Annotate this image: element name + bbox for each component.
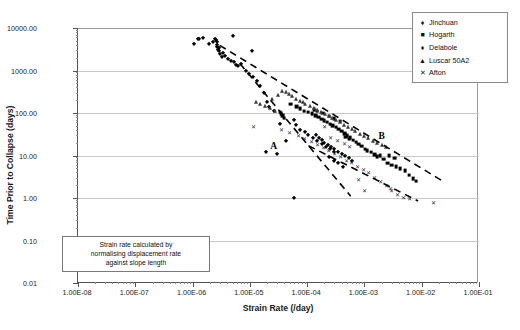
y-tick-label: 10.00 [19, 151, 37, 160]
x-tick-minor [187, 282, 188, 284]
x-tick-minor [382, 282, 383, 284]
x-tick-minor [175, 282, 176, 284]
y-tick [73, 198, 78, 199]
legend-label: Jinchuan [429, 18, 458, 27]
x-tick-minor [347, 282, 348, 284]
x-axis-title: Strain Rate (/day) [243, 303, 314, 313]
y-tick-minor [76, 75, 78, 76]
legend-item-jinchuan[interactable]: ♦Jinchuan [417, 16, 503, 29]
data-point-x: ✕ [431, 200, 436, 206]
y-tick-minor [76, 41, 78, 42]
legend-item-afton[interactable]: ✕Afton [417, 66, 503, 79]
y-tick-minor [76, 135, 78, 136]
x-tick-minor [466, 282, 467, 284]
data-point-x: ✕ [355, 164, 360, 170]
data-point-x: ✕ [366, 170, 371, 176]
x-tick-minor [473, 282, 474, 284]
y-tick-minor [76, 211, 78, 212]
y-tick-minor [76, 143, 78, 144]
data-point-x: ✕ [347, 144, 352, 150]
legend-item-hogarth[interactable]: ■Hogarth [417, 29, 503, 42]
x-tick-minor [190, 282, 191, 284]
y-tick-minor [76, 215, 78, 216]
data-point-x: ✕ [372, 175, 377, 181]
x-tick-minor [362, 282, 363, 284]
y-tick-minor [76, 80, 78, 81]
data-point-square [349, 139, 352, 142]
x-tick-minor [324, 282, 325, 284]
x-tick [135, 282, 136, 287]
x-tick-minor [416, 282, 417, 284]
data-point-x: ✕ [356, 177, 361, 183]
legend-marker-icon: ♦ [417, 19, 428, 26]
note-line-1: Strain rate calculated by [65, 240, 207, 249]
legend: ♦Jinchuan■Hogarth♦Delabole▲Luscar 50A2✕A… [412, 12, 508, 83]
y-tick-label: 0.10 [23, 236, 37, 245]
x-tick-minor [105, 282, 106, 284]
x-tick-minor [153, 282, 154, 284]
data-point-square [284, 118, 287, 121]
x-tick-minor [112, 282, 113, 284]
y-tick [73, 113, 78, 114]
legend-marker-icon: ■ [417, 31, 428, 38]
legend-item-delabole[interactable]: ♦Delabole [417, 41, 503, 54]
x-tick-minor [227, 282, 228, 284]
y-tick-minor [76, 122, 78, 123]
x-tick-minor [404, 282, 405, 284]
x-tick-minor [118, 282, 119, 284]
x-tick-minor [305, 282, 306, 284]
y-tick [73, 156, 78, 157]
y-tick-minor [76, 130, 78, 131]
x-tick-minor [233, 282, 234, 284]
x-tick-label: 1.00E-07 [120, 288, 149, 297]
data-point-x: ✕ [251, 124, 256, 130]
data-point-x: ✕ [309, 139, 314, 145]
note-line-2: normalising displacement rate [65, 249, 207, 258]
data-point-x: ✕ [338, 154, 343, 160]
x-tick-minor [352, 282, 353, 284]
legend-label: Afton [429, 68, 446, 77]
y-tick [73, 28, 78, 29]
x-tick [307, 282, 308, 287]
y-tick-minor [76, 32, 78, 33]
y-tick-minor [76, 83, 78, 84]
y-tick-minor [76, 162, 78, 163]
x-tick-label: 1.00E-08 [62, 288, 91, 297]
data-point-triangle [272, 99, 276, 103]
x-tick-minor [130, 282, 131, 284]
y-tick-minor [76, 35, 78, 36]
data-point-x: ✕ [388, 186, 393, 192]
x-tick-minor [342, 282, 343, 284]
envelope-label-a: A [270, 141, 277, 151]
x-tick [422, 282, 423, 287]
y-tick-minor [76, 178, 78, 179]
data-point-square [416, 181, 419, 184]
x-tick-label: 1.00E-06 [177, 288, 206, 297]
data-point-x: ✕ [326, 148, 331, 154]
data-point-x: ✕ [362, 188, 367, 194]
data-point-x: ✕ [315, 142, 320, 148]
x-tick-minor [470, 282, 471, 284]
x-tick-minor [277, 282, 278, 284]
y-tick-minor [76, 120, 78, 121]
data-point-triangle [275, 111, 279, 115]
y-tick-minor [76, 157, 78, 158]
note-line-3: against slope length [65, 258, 207, 267]
x-tick-minor [220, 282, 221, 284]
y-tick-minor [76, 77, 78, 78]
note-box: Strain rate calculated by normalising di… [62, 236, 210, 272]
x-tick [193, 282, 194, 287]
y-tick-minor [76, 228, 78, 229]
y-tick-label: 10000.00 [7, 24, 37, 33]
y-tick-minor [76, 30, 78, 31]
gridline-y [78, 156, 479, 157]
x-tick-minor [163, 282, 164, 284]
x-tick-minor [294, 282, 295, 284]
x-tick-minor [298, 282, 299, 284]
x-tick-minor [170, 282, 171, 284]
x-tick-minor [247, 282, 248, 284]
envelope-label-b: B [379, 131, 385, 141]
x-tick-minor [399, 282, 400, 284]
data-point-x: ✕ [321, 145, 326, 151]
legend-item-luscar-50a2[interactable]: ▲Luscar 50A2 [417, 54, 503, 67]
